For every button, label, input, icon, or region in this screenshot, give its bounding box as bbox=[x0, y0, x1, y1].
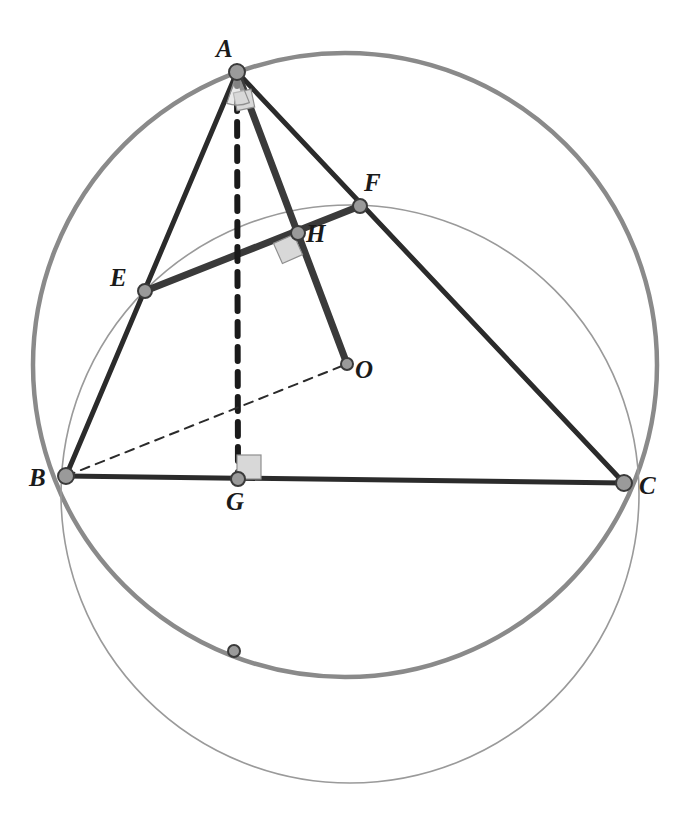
vertices-group bbox=[58, 64, 632, 657]
vertex-point-A bbox=[229, 64, 245, 80]
point-label-G: G bbox=[226, 489, 244, 514]
vertex-point-H bbox=[291, 226, 305, 240]
vertex-point-G bbox=[231, 472, 245, 486]
point-label-E: E bbox=[110, 265, 127, 290]
geometry-canvas bbox=[0, 0, 679, 813]
segment-AC bbox=[237, 72, 624, 483]
point-label-O: O bbox=[355, 357, 373, 382]
point-label-B: B bbox=[29, 465, 46, 490]
vertex-point-unlabeled bbox=[228, 645, 240, 657]
segment-BC bbox=[66, 476, 624, 483]
point-label-F: F bbox=[364, 170, 381, 195]
vertex-point-B bbox=[58, 468, 74, 484]
vertex-point-E bbox=[138, 284, 152, 298]
geometry-figure: A B C E F G H O bbox=[0, 0, 679, 813]
segment-AG bbox=[237, 72, 238, 479]
vertex-point-F bbox=[353, 199, 367, 213]
point-label-H: H bbox=[306, 221, 325, 246]
vertex-point-C bbox=[616, 475, 632, 491]
point-label-A: A bbox=[216, 36, 233, 61]
segment-AB bbox=[66, 72, 237, 476]
vertex-point-O bbox=[341, 358, 353, 370]
point-label-C: C bbox=[639, 473, 656, 498]
